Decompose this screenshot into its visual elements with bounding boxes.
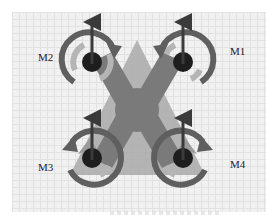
inner-ring-segment (166, 45, 175, 54)
motor-label-m1: M1 (230, 46, 245, 57)
inner-ring-segment (73, 45, 84, 70)
motor-label-m2: M2 (38, 52, 53, 63)
quadcopter-diagram (0, 0, 272, 219)
faint-caption (110, 211, 220, 215)
motor-label-m4: M4 (230, 159, 245, 170)
motor-label-m3: M3 (38, 162, 53, 173)
inner-ring-segment (191, 70, 200, 79)
